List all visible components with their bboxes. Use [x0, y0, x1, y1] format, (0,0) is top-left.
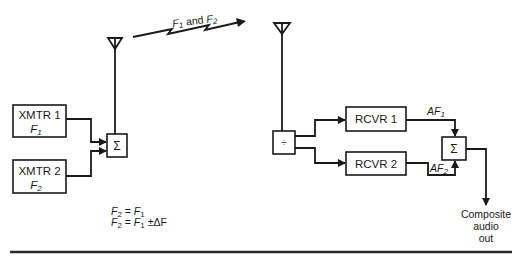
rcvr-1-label: RCVR 1: [355, 113, 397, 125]
tx-summer-symbol: Σ: [113, 139, 120, 153]
rcvr-2-block: RCVR 2: [346, 152, 406, 175]
xmtr-2-block: XMTR 2 F2: [13, 160, 66, 193]
output-line-3: out: [479, 232, 494, 244]
tx-antenna-icon: [108, 38, 122, 49]
splitter-to-rcvr-1-wire: [295, 120, 345, 136]
xmtr-1-wire: [66, 119, 106, 142]
xmtr-2-label: XMTR 2: [18, 165, 60, 177]
rf-link-arrowhead: [236, 18, 246, 27]
splitter-to-rcvr-2-wire: [295, 148, 345, 163]
xmtr-2-wire: [66, 151, 106, 176]
af1-label: AF1: [426, 105, 445, 119]
rx-splitter-symbol: ÷: [281, 137, 287, 148]
af1-wire: [406, 120, 455, 136]
af2-label: AF2: [429, 162, 448, 176]
xmtr-1-block: XMTR 1 F1: [13, 105, 66, 137]
rx-summer-block: Σ: [442, 137, 466, 160]
composite-output-wire: [466, 149, 486, 205]
frequency-equations: F2 = F1 F2 = F1 ±ΔF: [111, 205, 167, 230]
output-line-1: Composite: [461, 208, 511, 220]
rcvr-2-label: RCVR 2: [355, 158, 397, 170]
composite-output-label: Composite audio out: [461, 208, 511, 244]
xmtr-1-label: XMTR 1: [18, 109, 60, 121]
output-line-2: audio: [473, 220, 499, 232]
rx-antenna-icon: [274, 23, 290, 34]
diversity-transmission-diagram: XMTR 1 F1 XMTR 2 F2 Σ F1 and F2 ÷ RCVR 1…: [0, 0, 519, 256]
tx-summer-block: Σ: [107, 134, 127, 157]
rcvr-1-block: RCVR 1: [346, 107, 406, 131]
rx-splitter-block: ÷: [273, 131, 295, 154]
rx-summer-symbol: Σ: [450, 142, 457, 156]
